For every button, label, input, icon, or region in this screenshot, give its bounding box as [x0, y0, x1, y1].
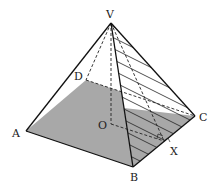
- label-a: A: [11, 127, 21, 140]
- label-c: C: [199, 111, 207, 124]
- label-b: B: [130, 171, 138, 184]
- label-x: X: [170, 145, 178, 158]
- label-o: O: [98, 119, 107, 132]
- label-d: D: [74, 70, 83, 83]
- label-v: V: [105, 8, 115, 21]
- pyramid-diagram: V A B C D O X: [0, 0, 218, 187]
